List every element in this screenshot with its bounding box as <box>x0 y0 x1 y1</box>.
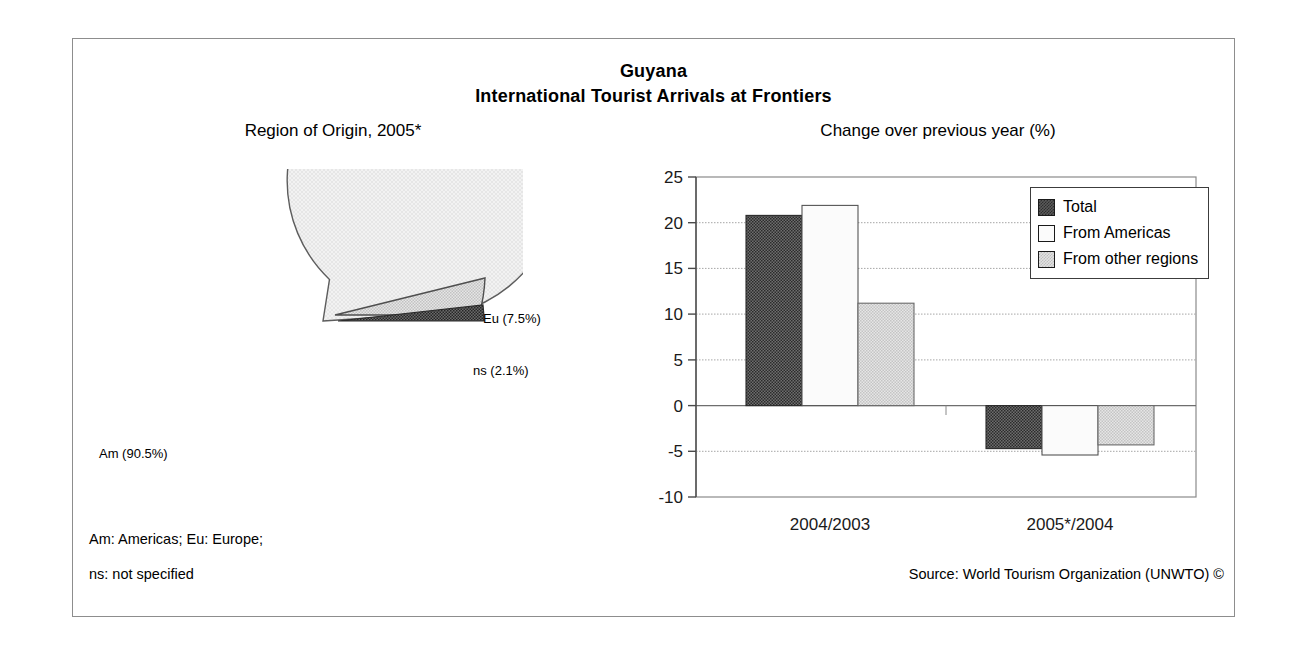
pie-chart-graphic <box>183 169 523 469</box>
page-title: Guyana <box>73 59 1234 83</box>
bar-chart-title: Change over previous year (%) <box>668 121 1208 141</box>
y-tick-10: 10 <box>664 305 683 324</box>
bar-2005-total <box>986 406 1042 449</box>
legend-item-other-regions: From other regions <box>1038 246 1198 272</box>
y-tick-25: 25 <box>664 168 683 187</box>
footnote-ns: ns: not specified <box>89 566 194 582</box>
bar-2005-other <box>1098 406 1154 445</box>
footnote-abbreviations: Am: Americas; Eu: Europe; <box>89 531 263 547</box>
legend-swatch-other-regions-icon <box>1038 251 1055 268</box>
bar-2005-americas <box>1042 406 1098 455</box>
y-tick-20: 20 <box>664 214 683 233</box>
y-tick-5: 5 <box>674 351 683 370</box>
pie-label-ns: ns (2.1%) <box>473 363 529 378</box>
legend-label-other-regions: From other regions <box>1063 251 1198 267</box>
y-tick-neg5: -5 <box>668 442 683 461</box>
bar-2004-total <box>746 215 802 405</box>
x-tick-2005-2004: 2005*/2004 <box>1027 515 1114 534</box>
chart-legend: Total From Americas From other regions <box>1030 187 1209 279</box>
legend-item-total: Total <box>1038 194 1198 220</box>
y-tick-neg10: -10 <box>658 488 683 507</box>
legend-label-total: Total <box>1063 199 1097 215</box>
legend-swatch-total-icon <box>1038 199 1055 216</box>
x-axis-tick-labels: 2004/2003 2005*/2004 <box>790 515 1114 534</box>
legend-label-americas: From Americas <box>1063 225 1171 241</box>
pie-label-am: Am (90.5%) <box>99 446 168 461</box>
bar-2004-americas <box>802 205 858 405</box>
figure-frame: Guyana International Tourist Arrivals at… <box>72 38 1235 617</box>
bar-2004-other <box>858 303 914 405</box>
chart-title-block: Guyana International Tourist Arrivals at… <box>73 59 1234 109</box>
pie-label-eu: Eu (7.5%) <box>483 311 541 326</box>
x-tick-2004-2003: 2004/2003 <box>790 515 870 534</box>
bar-chart-panel: Change over previous year (%) <box>638 121 1233 591</box>
pie-chart-panel: Region of Origin, 2005* <box>73 121 643 541</box>
y-axis-tick-labels: 25 20 15 10 5 0 -5 -10 <box>658 168 683 507</box>
pie-chart-title: Region of Origin, 2005* <box>73 121 593 141</box>
legend-item-americas: From Americas <box>1038 220 1198 246</box>
y-tick-15: 15 <box>664 259 683 278</box>
chart-subtitle: International Tourist Arrivals at Fronti… <box>73 83 1234 109</box>
source-credit: Source: World Tourism Organization (UNWT… <box>909 566 1224 582</box>
legend-swatch-americas-icon <box>1038 225 1055 242</box>
y-tick-0: 0 <box>674 397 683 416</box>
y-axis-ticks <box>688 177 696 497</box>
